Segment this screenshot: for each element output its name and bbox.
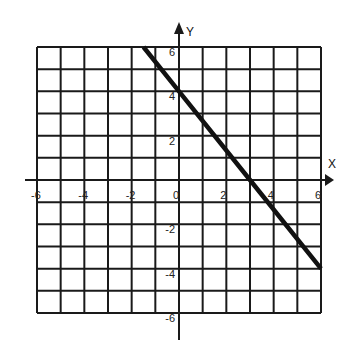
x-axis-label: X — [328, 157, 336, 171]
y-tick-label: 4 — [169, 90, 175, 102]
x-tick-label: -2 — [126, 189, 136, 201]
x-tick-label: 4 — [268, 189, 274, 201]
y-axis-label: Y — [186, 25, 194, 39]
y-tick-label: 2 — [169, 135, 175, 147]
x-axis-arrow-icon — [325, 174, 334, 186]
y-axis-arrow-icon — [174, 22, 184, 34]
x-tick-label: -6 — [31, 189, 41, 201]
x-tick-label: 0 — [173, 189, 179, 201]
x-tick-label: 6 — [315, 189, 321, 201]
y-tick-label: -4 — [165, 268, 175, 280]
y-tick-label: 6 — [169, 46, 175, 58]
coordinate-plane-chart: -6-4-20246642-2-4-6 X Y — [0, 0, 347, 351]
y-tick-label: -2 — [165, 223, 175, 235]
x-tick-label: 2 — [220, 189, 226, 201]
x-tick-label: -4 — [78, 189, 88, 201]
y-tick-label: -6 — [165, 312, 175, 324]
